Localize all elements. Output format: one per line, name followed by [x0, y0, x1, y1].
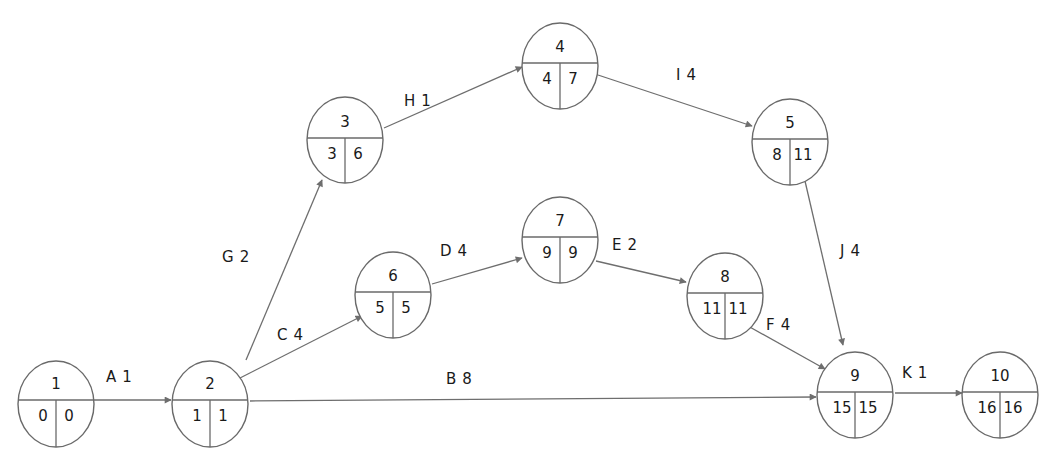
node-6: 655 — [355, 252, 431, 338]
node-number: 1 — [51, 375, 61, 393]
activity-label: H1 — [404, 92, 431, 110]
activity-label: G2 — [222, 248, 249, 266]
earliest-time: 9 — [542, 244, 552, 262]
arrow-icon — [598, 75, 752, 126]
activity-J: J4 — [805, 181, 860, 345]
activity-F: F4 — [748, 316, 825, 369]
activity-label: K1 — [902, 364, 927, 382]
activity-label: I4 — [676, 66, 696, 84]
node-4: 447 — [522, 23, 598, 109]
arrow-icon — [432, 258, 522, 284]
activity-C: C4 — [240, 316, 362, 378]
node-7: 799 — [522, 197, 598, 283]
latest-time: 6 — [353, 145, 363, 163]
activity-label: A1 — [106, 368, 132, 386]
activity-B: B8 — [250, 370, 816, 401]
arrow-icon — [805, 181, 843, 345]
earliest-time: 1 — [192, 407, 202, 425]
latest-time: 7 — [568, 70, 578, 88]
latest-time: 15 — [858, 399, 877, 417]
earliest-time: 11 — [702, 300, 721, 318]
earliest-time: 15 — [832, 399, 851, 417]
node-number: 4 — [555, 38, 565, 56]
node-number: 3 — [340, 113, 350, 131]
latest-time: 5 — [401, 299, 411, 317]
activity-I: I4 — [598, 66, 752, 126]
earliest-time: 0 — [38, 407, 48, 425]
latest-time: 1 — [218, 407, 228, 425]
latest-time: 0 — [64, 407, 74, 425]
activity-label: B8 — [446, 370, 472, 388]
node-number: 9 — [850, 367, 860, 385]
latest-time: 11 — [793, 146, 812, 164]
node-number: 5 — [785, 114, 795, 132]
activity-label: D4 — [440, 242, 467, 260]
activity-D: D4 — [432, 242, 522, 284]
earliest-time: 5 — [375, 299, 385, 317]
activity-G: G2 — [222, 180, 322, 360]
latest-time: 11 — [728, 300, 747, 318]
node-number: 7 — [555, 212, 565, 230]
earliest-time: 3 — [327, 145, 337, 163]
latest-time: 16 — [1003, 399, 1022, 417]
node-8: 81111 — [687, 253, 763, 339]
latest-time: 9 — [568, 244, 578, 262]
node-2: 211 — [172, 361, 248, 447]
activity-K: K1 — [895, 364, 962, 393]
activity-label: E2 — [612, 236, 637, 254]
node-3: 336 — [307, 97, 383, 183]
network-diagram: A1B8C4D4E2F4G2H1I4J4K1 10021133644758116… — [0, 0, 1057, 450]
arrow-icon — [596, 261, 686, 282]
activity-label: C4 — [277, 326, 303, 344]
activity-A: A1 — [94, 368, 171, 400]
node-number: 10 — [990, 367, 1009, 385]
activity-E: E2 — [596, 236, 686, 282]
node-10: 101616 — [962, 352, 1038, 438]
node-9: 91515 — [817, 352, 893, 438]
event-nodes: 10021133644758116557998111191515101616 — [18, 23, 1038, 447]
node-1: 100 — [18, 361, 94, 447]
node-number: 2 — [205, 375, 215, 393]
activity-label: J4 — [839, 242, 860, 260]
earliest-time: 16 — [977, 399, 996, 417]
earliest-time: 8 — [772, 146, 782, 164]
earliest-time: 4 — [542, 70, 552, 88]
activity-H: H1 — [384, 67, 522, 128]
arrow-icon — [250, 397, 816, 401]
node-5: 5811 — [752, 99, 828, 185]
activity-label: F4 — [766, 316, 790, 334]
node-number: 8 — [720, 268, 730, 286]
node-number: 6 — [388, 267, 398, 285]
